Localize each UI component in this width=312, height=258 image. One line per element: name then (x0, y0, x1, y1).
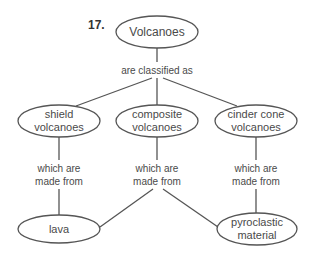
node-composite-volcanoes: composite volcanoes (116, 105, 198, 137)
node-shield-volcanoes: shield volcanoes (18, 105, 100, 137)
node-lava: lava (18, 215, 100, 243)
svg-text:shield: shield (45, 108, 74, 120)
node-pyroclastic-material: pyroclastic material (217, 213, 297, 245)
connector (163, 78, 237, 106)
concept-map: 17. Volcanoes are classified as shield v… (0, 0, 312, 258)
connector (100, 189, 153, 227)
svg-text:volcanoes: volcanoes (34, 121, 84, 133)
svg-text:lava: lava (49, 223, 70, 235)
svg-text:pyroclastic: pyroclastic (231, 216, 283, 228)
svg-text:which are: which are (135, 163, 179, 174)
link-label-classified: are classified as (121, 65, 193, 76)
connector (76, 78, 152, 106)
connector (163, 189, 218, 227)
svg-text:which are: which are (234, 163, 278, 174)
svg-text:composite: composite (132, 108, 182, 120)
link-label-made-from-composite: which are made from (133, 163, 181, 187)
svg-text:Volcanoes: Volcanoes (129, 25, 184, 39)
link-label-made-from-cinder: which are made from (232, 163, 280, 187)
svg-text:made from: made from (133, 176, 181, 187)
svg-text:material: material (237, 229, 276, 241)
svg-text:cinder cone: cinder cone (228, 108, 285, 120)
question-number: 17. (88, 18, 105, 32)
link-label-made-from-shield: which are made from (35, 163, 83, 187)
svg-text:which are: which are (37, 163, 81, 174)
node-volcanoes: Volcanoes (116, 16, 198, 48)
node-cinder-cone-volcanoes: cinder cone volcanoes (215, 105, 297, 137)
svg-text:made from: made from (35, 176, 83, 187)
svg-text:made from: made from (232, 176, 280, 187)
svg-text:volcanoes: volcanoes (231, 121, 281, 133)
svg-text:volcanoes: volcanoes (132, 121, 182, 133)
